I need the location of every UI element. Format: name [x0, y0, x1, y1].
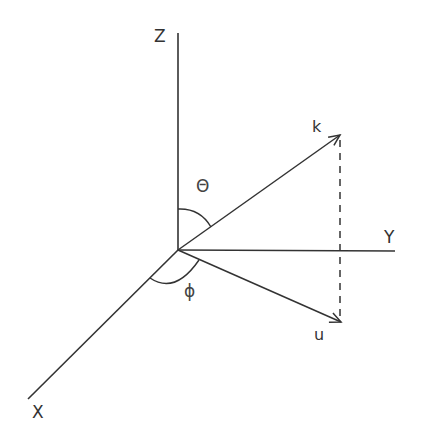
- y-axis: [178, 250, 395, 251]
- coordinate-diagram: [0, 0, 426, 444]
- u-vector: [178, 250, 341, 322]
- theta-arc: [178, 209, 211, 227]
- k-vector-label: k: [312, 119, 321, 135]
- z-axis-label: Z: [154, 28, 166, 45]
- u-vector-label: u: [314, 327, 324, 343]
- y-axis-label: Y: [384, 229, 394, 246]
- theta-label: Θ: [196, 178, 209, 195]
- phi-label: ϕ: [184, 283, 195, 300]
- x-axis-label: X: [32, 404, 44, 421]
- x-axis: [28, 250, 178, 399]
